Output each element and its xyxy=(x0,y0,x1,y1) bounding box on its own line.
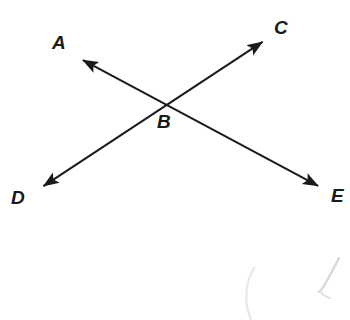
line-a-e xyxy=(83,60,318,186)
point-label-e: E xyxy=(331,186,344,205)
geometry-figure: A B C D E xyxy=(0,0,350,320)
point-label-c: C xyxy=(274,18,288,37)
line-d-c xyxy=(44,42,263,186)
scan-artifacts xyxy=(246,258,339,320)
scan-smudge-right-tail-icon xyxy=(320,291,330,298)
point-label-a: A xyxy=(52,33,66,52)
point-label-b: B xyxy=(157,112,171,131)
line-layer xyxy=(44,42,319,186)
point-label-d: D xyxy=(11,188,25,207)
scan-smudge-right-icon xyxy=(319,258,339,292)
scan-smudge-left-icon xyxy=(246,268,254,320)
